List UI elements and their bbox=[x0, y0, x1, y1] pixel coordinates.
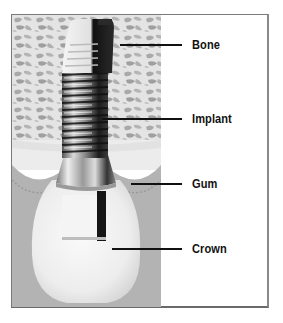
gum-leader-line bbox=[131, 183, 182, 185]
label-implant: Implant bbox=[192, 112, 232, 126]
label-gum: Gum bbox=[192, 177, 217, 191]
implant-illustration-svg bbox=[12, 15, 161, 307]
implant-leader-line bbox=[102, 118, 182, 120]
label-crown: Crown bbox=[192, 242, 227, 256]
implant-illustration bbox=[12, 15, 161, 307]
crown-leader-line bbox=[112, 248, 182, 250]
label-bone: Bone bbox=[192, 38, 220, 52]
bone-leader-line bbox=[120, 44, 182, 46]
abutment-collar bbox=[56, 155, 116, 187]
